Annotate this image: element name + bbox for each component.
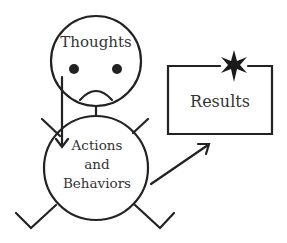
body-label-line-3: Behaviors xyxy=(60,174,134,193)
head-label: Thoughts xyxy=(51,35,141,50)
head-circle xyxy=(51,16,141,106)
star-icon xyxy=(221,50,247,82)
right-eye-icon xyxy=(112,64,122,74)
thoughts-actions-results-diagram: Thoughts Results Actions and Behaviors xyxy=(0,0,287,243)
body-label-line-1: Actions xyxy=(60,136,134,155)
left-leg xyxy=(16,205,56,228)
right-arm xyxy=(133,119,148,133)
diagram-canvas xyxy=(0,0,287,243)
result-label: Results xyxy=(168,94,272,110)
right-leg xyxy=(135,205,174,228)
body-label-line-2: and xyxy=(60,155,134,174)
left-arm xyxy=(42,119,60,136)
arrow-actions-to-results xyxy=(151,145,208,184)
sad-mouth-icon xyxy=(80,91,112,100)
body-label: Actions and Behaviors xyxy=(60,136,134,193)
left-eye-icon xyxy=(69,64,79,74)
